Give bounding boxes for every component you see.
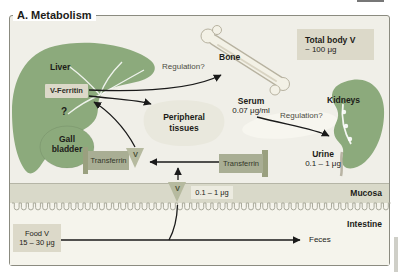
gall-bladder-line2: bladder bbox=[52, 144, 83, 154]
absorption-value-box: 0.1 – 1 μg bbox=[191, 186, 233, 199]
intestine-lumen-area bbox=[10, 203, 389, 265]
urine-label: Urine 0.1 – 1 μg bbox=[299, 149, 347, 169]
liver-label: Liver bbox=[50, 62, 70, 72]
metabolism-diagram-panel: A. Metabolism Liver V-Ferritin ? Gall bl… bbox=[0, 0, 398, 274]
gall-bladder-line1: Gall bbox=[59, 134, 75, 144]
v-ferritin-box: V-Ferritin bbox=[45, 84, 88, 98]
peripheral-tissues-label: Peripheral tissues bbox=[145, 112, 223, 134]
urine-value: 0.1 – 1 μg bbox=[299, 159, 347, 169]
serum-label: Serum 0.07 μg/ml bbox=[227, 96, 275, 116]
mucosa-label: Mucosa bbox=[330, 188, 382, 198]
unknown-question-mark: ? bbox=[61, 106, 67, 117]
transferrin-left-box: Transferrin bbox=[88, 151, 129, 170]
food-title: Food V bbox=[25, 229, 49, 238]
vanadium-symbol-mucosa: V bbox=[168, 184, 187, 193]
food-box: Food V 15 – 30 μg bbox=[13, 224, 61, 252]
kidneys-label: Kidneys bbox=[327, 95, 360, 105]
regulation-bone-label: Regulation? bbox=[162, 62, 205, 71]
transferrin-right-box: Transferrin bbox=[219, 154, 263, 173]
serum-title: Serum bbox=[227, 96, 275, 106]
peripheral-line1: Peripheral bbox=[163, 112, 205, 122]
total-body-box: Total body V ~ 100 μg bbox=[297, 29, 374, 60]
food-value: 15 – 30 μg bbox=[19, 238, 55, 247]
vanadium-symbol-transferrin: V bbox=[126, 150, 145, 159]
bone-label: Bone bbox=[219, 52, 240, 62]
intestine-label: Intestine bbox=[330, 219, 382, 229]
page-edge-artifact bbox=[357, 0, 384, 2]
serum-value: 0.07 μg/ml bbox=[227, 106, 275, 116]
total-body-title: Total body V bbox=[305, 35, 374, 45]
urine-title: Urine bbox=[299, 149, 347, 159]
peripheral-line2: tissues bbox=[169, 123, 198, 133]
adjacent-page-sliver bbox=[394, 237, 398, 272]
feces-label: Feces bbox=[309, 235, 331, 244]
regulation-kidney-label: Regulation? bbox=[280, 111, 323, 120]
total-body-value: ~ 100 μg bbox=[305, 45, 374, 55]
figure-title: A. Metabolism bbox=[13, 9, 96, 21]
